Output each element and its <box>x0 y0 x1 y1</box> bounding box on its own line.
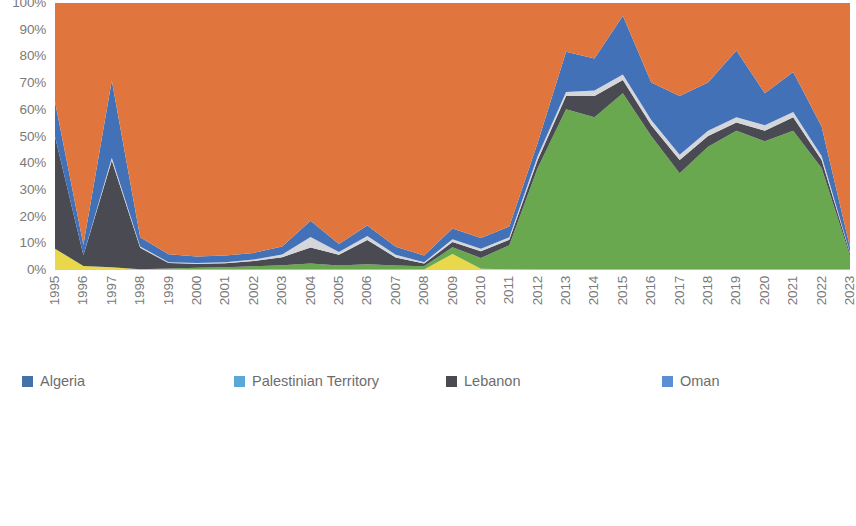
x-axis-tick: 2003 <box>275 276 289 305</box>
y-axis-tick: 60% <box>20 103 46 117</box>
legend-swatch-icon <box>22 376 33 387</box>
x-axis-tick: 2010 <box>474 276 488 305</box>
legend-item-label: Oman <box>680 374 720 389</box>
x-axis-tick: 2012 <box>531 276 545 305</box>
x-axis-tick: 2000 <box>190 276 204 305</box>
y-axis-tick: 80% <box>20 50 46 64</box>
x-axis-tick: 2017 <box>673 276 687 305</box>
y-axis-tick: 40% <box>20 156 46 170</box>
x-axis-tick: 2001 <box>218 276 232 305</box>
stacked-area-chart: 0%10%20%30%40%50%60%70%80%90%100% 199519… <box>0 0 856 526</box>
legend-item[interactable]: Oman <box>662 368 856 395</box>
y-axis-tick: 50% <box>20 130 46 144</box>
x-axis-tick: 1998 <box>133 276 147 305</box>
y-axis-tick: 100% <box>12 0 46 10</box>
x-axis-tick: 1997 <box>105 276 119 305</box>
y-axis-tick: 20% <box>20 210 46 224</box>
y-axis-tick: 30% <box>20 183 46 197</box>
area-series-svg <box>55 3 850 270</box>
x-axis-tick: 2014 <box>587 276 601 305</box>
y-axis-tick: 90% <box>20 23 46 37</box>
x-axis-tick: 2018 <box>701 276 715 305</box>
x-axis-tick: 2002 <box>247 276 261 305</box>
legend-item[interactable]: Lebanon <box>446 368 662 395</box>
x-axis-tick: 2015 <box>616 276 630 305</box>
x-axis: 1995199619971998199920002001200220032004… <box>55 272 850 360</box>
x-axis-tick: 2023 <box>843 276 856 305</box>
plot-area <box>55 3 850 270</box>
plot-wrapper: 0%10%20%30%40%50%60%70%80%90%100% 199519… <box>0 0 856 360</box>
x-axis-tick: 2011 <box>502 276 516 304</box>
x-axis-tick: 2020 <box>758 276 772 305</box>
x-axis-tick: 2021 <box>786 276 800 305</box>
x-axis-tick: 2007 <box>389 276 403 305</box>
legend-swatch-icon <box>234 376 245 387</box>
y-axis-tick: 70% <box>20 76 46 90</box>
x-axis-tick: 2006 <box>360 276 374 305</box>
x-axis-tick: 2016 <box>644 276 658 305</box>
x-axis-tick: 1995 <box>48 276 62 305</box>
legend-item[interactable]: Algeria <box>22 368 234 395</box>
x-axis-tick: 2005 <box>332 276 346 305</box>
x-axis-tick: 1999 <box>162 276 176 305</box>
y-axis: 0%10%20%30%40%50%60%70%80%90%100% <box>0 0 50 272</box>
x-axis-tick: 2008 <box>417 276 431 305</box>
x-axis-tick: 2009 <box>446 276 460 305</box>
chart-legend: AlgeriaPalestinian TerritoryLebanonOmanW… <box>0 368 856 526</box>
legend-swatch-icon <box>446 376 457 387</box>
legend-swatch-icon <box>662 376 673 387</box>
y-axis-tick: 0% <box>27 263 46 277</box>
x-axis-tick: 2022 <box>815 276 829 305</box>
legend-item-label: Lebanon <box>464 374 520 389</box>
legend-item-label: Algeria <box>40 374 85 389</box>
legend-item[interactable]: Palestinian Territory <box>234 368 446 395</box>
x-axis-tick: 2019 <box>729 276 743 305</box>
x-axis-tick: 1996 <box>76 276 90 305</box>
x-axis-tick: 2004 <box>304 276 318 305</box>
y-axis-tick: 10% <box>20 237 46 251</box>
legend-item-label: Palestinian Territory <box>252 374 379 389</box>
x-axis-tick: 2013 <box>559 276 573 305</box>
